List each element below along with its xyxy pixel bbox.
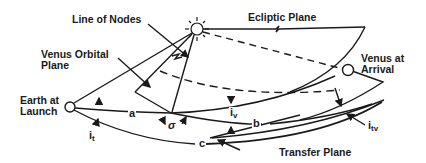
ecliptic-curved-edge [290, 27, 365, 92]
earth-circle [65, 102, 75, 112]
diagram-lines [0, 0, 426, 163]
orbital-planes-diagram: Line of Nodes Ecliptic Plane Venus Orbit… [0, 0, 426, 163]
venus-circle [343, 65, 354, 76]
symbol-i-t: it [88, 130, 96, 144]
symbol-b: b [252, 118, 261, 129]
venus-at-arrival-label-2: Arrival [361, 64, 394, 75]
symbol-a: a [128, 108, 136, 119]
transfer-plane-label: Transfer Plane [279, 147, 351, 158]
symbol-i-v: iv [229, 107, 239, 121]
line-of-nodes-label: Line of Nodes [72, 14, 141, 25]
ecliptic-plane-label: Ecliptic Plane [248, 12, 316, 23]
venus-orbital-plane-label-2: Plane [41, 60, 69, 71]
symbol-i-tv: itv [367, 120, 379, 134]
earth-at-launch-label-2: Launch [20, 106, 57, 117]
symbol-sigma: σ [167, 120, 176, 131]
symbol-c: c [198, 138, 206, 149]
